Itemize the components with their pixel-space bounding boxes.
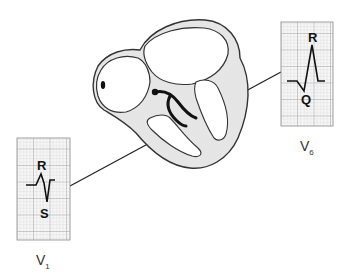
lead-label-v6: V6 — [300, 138, 314, 157]
ecg-strip-v1: R S — [17, 138, 70, 240]
wave-label-s-v1: S — [40, 206, 49, 221]
lead-label-v6-main: V — [300, 138, 309, 154]
lead-label-v6-sub: 6 — [309, 148, 313, 157]
diagram-stage: R S R Q V1 V6 — [0, 0, 354, 280]
heart-illustration — [93, 20, 248, 168]
lead-label-v1: V1 — [36, 252, 50, 271]
lead-label-v1-sub: 1 — [45, 262, 49, 271]
ecg-strip-v6: R Q — [281, 22, 333, 126]
wave-label-r-v6: R — [308, 30, 318, 45]
wave-label-r-v1: R — [37, 158, 47, 173]
wave-label-q-v6: Q — [301, 92, 311, 107]
lead-label-v1-main: V — [36, 252, 45, 268]
sa-node — [101, 81, 105, 89]
